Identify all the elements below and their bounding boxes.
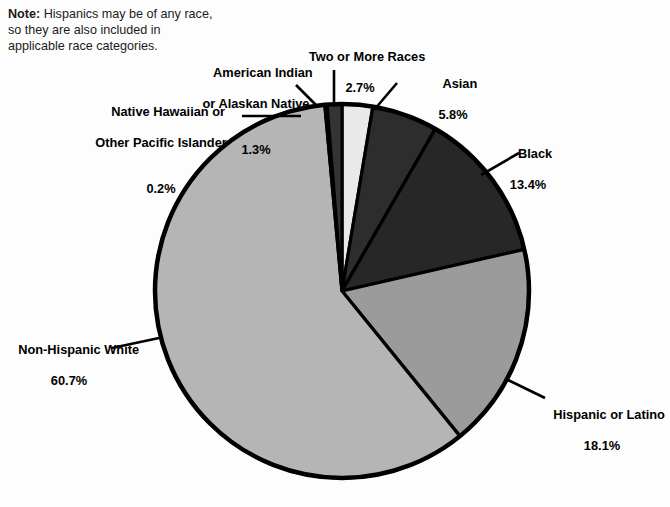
slice-label-black-pct: 13.4% [482, 177, 574, 193]
slice-label-american-indian-line1: American Indian [213, 65, 313, 80]
slice-label-hispanic-pct: 18.1% [534, 438, 670, 454]
slice-label-non-hispanic-white: Non-Hispanic White 60.7% [4, 326, 134, 419]
slice-label-non-hispanic-white-name: Non-Hispanic White [18, 342, 139, 357]
slice-label-native-hawaiian: Native Hawaiian or Other Pacific Islande… [76, 88, 246, 228]
slice-label-native-hawaiian-line1: Native Hawaiian or [111, 104, 225, 119]
slice-label-asian-name: Asian [442, 76, 477, 91]
chart-canvas: Note: Hispanics may be of any race, so t… [0, 0, 670, 507]
slice-label-asian-pct: 5.8% [398, 107, 508, 123]
slice-label-hispanic: Hispanic or Latino 18.1% [534, 391, 670, 484]
slice-label-native-hawaiian-pct: 0.2% [76, 181, 246, 197]
chart-note: Note: Hispanics may be of any race, so t… [8, 6, 220, 55]
slice-label-non-hispanic-white-pct: 60.7% [4, 373, 134, 389]
chart-note-lead: Note: [8, 7, 40, 21]
slice-label-hispanic-name: Hispanic or Latino [553, 407, 665, 422]
slice-label-native-hawaiian-line2: Other Pacific Islander [76, 135, 246, 151]
slice-label-black-name: Black [518, 146, 552, 161]
slice-label-black: Black 13.4% [482, 130, 574, 223]
